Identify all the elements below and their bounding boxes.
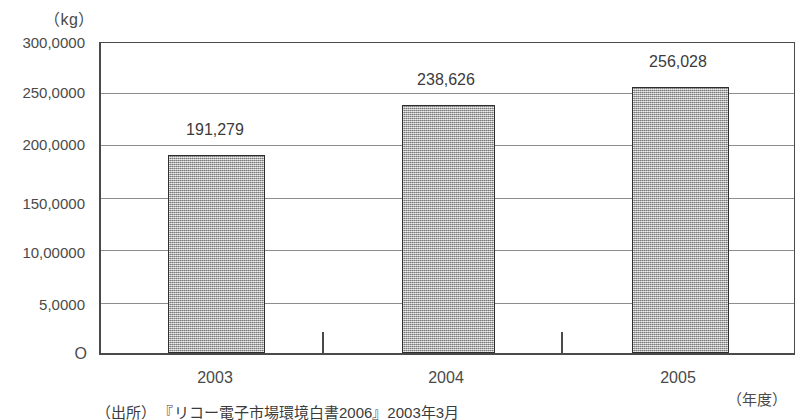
plot-area xyxy=(99,42,795,355)
bar-value-label-2004: 238,626 xyxy=(399,72,493,88)
chart-canvas: （kg） 300,0000 250,0000 200,0000 150,0000… xyxy=(0,0,803,420)
y-axis-tick-labels: 300,0000 250,0000 200,0000 150,0000 10,0… xyxy=(0,0,93,420)
source-note: （出所）『リコー電子市場環境白書2006』2003年3月 xyxy=(96,405,459,420)
category-separator-tick-1 xyxy=(322,332,324,354)
source-note-prefix: （出所） xyxy=(96,405,156,420)
y-tick-label-1000000: 10,00000 xyxy=(22,245,85,260)
bar-value-label-2003: 191,279 xyxy=(166,122,264,138)
y-tick-label-3000000: 300,0000 xyxy=(22,35,85,50)
y-tick-label-1500000: 150,0000 xyxy=(22,196,85,211)
x-axis-name-label: （年度） xyxy=(727,392,787,407)
bar-value-label-2005: 256,028 xyxy=(629,54,727,70)
source-note-text: 『リコー電子市場環境白書2006』2003年3月 xyxy=(166,405,459,420)
y-tick-label-500000: 5,0000 xyxy=(39,297,85,312)
bar-2003 xyxy=(168,155,265,353)
y-tick-label-2500000: 250,0000 xyxy=(22,85,85,100)
y-tick-label-2000000: 200,0000 xyxy=(22,137,85,152)
y-tick-label-0: O xyxy=(75,346,87,362)
category-separator-tick-2 xyxy=(561,332,563,354)
bar-2005 xyxy=(632,87,729,353)
x-tick-label-2005: 2005 xyxy=(629,370,727,386)
bar-2004 xyxy=(402,105,495,353)
x-tick-label-2004: 2004 xyxy=(399,370,493,386)
x-tick-label-2003: 2003 xyxy=(166,370,264,386)
